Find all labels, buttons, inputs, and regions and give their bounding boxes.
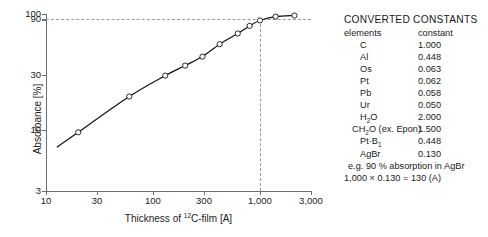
constants-row: Al0.448 <box>344 51 488 63</box>
x-axis-line <box>46 191 311 192</box>
constants-element-name: Pt·B1 <box>344 135 418 147</box>
constants-value: 1.500 <box>418 123 441 135</box>
data-point-marker <box>76 130 81 135</box>
data-point-marker <box>292 13 297 18</box>
figure-root: Absorbance [%] 3103090100 10301003001,00… <box>0 0 488 237</box>
constants-value: 0.063 <box>418 63 441 75</box>
example-line-1: e.g. 90 % absorption in AgBr <box>348 160 488 172</box>
x-axis-title-superscript: 12 <box>184 212 191 219</box>
constants-value: 0.058 <box>418 87 441 99</box>
data-point-marker <box>200 54 205 59</box>
constants-row: Pb0.058 <box>344 87 488 99</box>
constants-value: 0.448 <box>418 51 441 63</box>
constants-value: 0.448 <box>418 135 441 147</box>
absorbance-curve <box>46 14 311 191</box>
y-tick-label-10: 10 <box>30 125 41 135</box>
data-point-marker <box>247 23 252 28</box>
constants-row: Os0.063 <box>344 63 488 75</box>
constants-element-name: H2O <box>344 111 418 123</box>
data-point-marker <box>257 18 262 23</box>
constants-title: CONVERTED CONSTANTS <box>344 14 488 26</box>
data-point-marker <box>235 31 240 36</box>
constants-value: 0.062 <box>418 75 441 87</box>
constants-value: 0.130 <box>418 148 441 160</box>
constants-row: Ur0.050 <box>344 99 488 111</box>
data-point-marker <box>183 63 188 68</box>
x-tick-label-300: 300 <box>196 196 212 206</box>
chart-panel: Absorbance [%] 3103090100 10301003001,00… <box>0 0 340 237</box>
column-header-constant: constant <box>418 27 453 39</box>
constants-element-name: AgBr <box>344 148 418 160</box>
constants-row-group: C1.000Al0.448Os0.063Pt0.062Pb0.058Ur0.05… <box>340 39 488 159</box>
constants-row: C1.000 <box>344 39 488 51</box>
x-tick-label-1000: 1,000 <box>248 196 272 206</box>
x-axis-title: Thickness of 12C-film [A] <box>46 213 311 224</box>
curve-lead-in <box>57 132 78 147</box>
example-line-2: 1,000 × 0.130 = 130 (A) <box>344 172 488 184</box>
x-tick-label-30: 30 <box>92 196 103 206</box>
constants-row: AgBr0.130 <box>344 148 488 160</box>
constants-element-name: CH2O (ex. Epon) <box>344 123 418 135</box>
column-header-elements: elements <box>344 27 418 39</box>
constants-row: Pt0.062 <box>344 75 488 87</box>
constants-value: 0.050 <box>418 99 441 111</box>
data-point-marker <box>217 42 222 47</box>
y-tick-label-100: 100 <box>25 9 41 19</box>
constants-element-name: Pt <box>344 75 418 87</box>
x-axis-title-prefix: Thickness of <box>125 213 184 224</box>
constants-value: 1.000 <box>418 39 441 51</box>
constants-row: H2O2.000 <box>344 111 488 123</box>
curve-path <box>78 16 294 133</box>
constants-table: CONVERTED CONSTANTS elements constant C1… <box>340 14 488 184</box>
constants-column-headers: elements constant <box>344 27 488 39</box>
y-tick-label-30: 30 <box>30 70 41 80</box>
x-tick-label-3000: 3,000 <box>299 196 323 206</box>
y-axis-title: Absorbance [%] <box>32 83 43 154</box>
plot-area: 3103090100 10301003001,0003,000 <box>46 14 311 191</box>
data-point-marker <box>127 94 132 99</box>
constants-element-name: Al <box>344 51 418 63</box>
constants-element-name: Ur <box>344 99 418 111</box>
data-point-marker <box>163 73 168 78</box>
constants-row: Pt·B10.448 <box>344 135 488 147</box>
x-tick-label-10: 10 <box>41 196 52 206</box>
constants-element-name: Os <box>344 63 418 75</box>
x-axis-title-suffix: C-film [A] <box>191 213 232 224</box>
constants-element-name: Pb <box>344 87 418 99</box>
x-tick-label-100: 100 <box>145 196 161 206</box>
constants-element-name: C <box>344 39 418 51</box>
constants-row: CH2O (ex. Epon)1.500 <box>344 123 488 135</box>
constants-value: 2.000 <box>418 111 441 123</box>
data-point-marker <box>273 14 278 19</box>
